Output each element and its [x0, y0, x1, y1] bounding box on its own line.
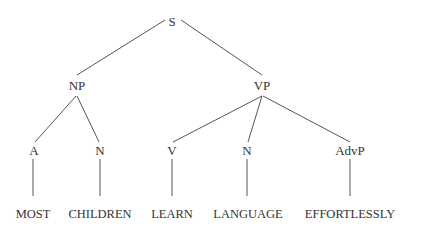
- node-s: S: [168, 15, 175, 28]
- edge-vp-n: [248, 96, 262, 142]
- edge-np-a: [35, 96, 76, 142]
- node-a: A: [29, 144, 38, 157]
- node-np: NP: [69, 79, 86, 92]
- node-v: V: [167, 144, 176, 157]
- edge-np-n: [77, 96, 99, 142]
- edge-s-np: [77, 20, 165, 75]
- leaf-language: LANGUAGE: [213, 208, 282, 221]
- leaf-learn: LEARN: [151, 208, 193, 221]
- node-n-noun-phrase: N: [95, 144, 104, 157]
- node-n-verb-phrase: N: [242, 144, 251, 157]
- leaf-children: CHILDREN: [68, 208, 131, 221]
- node-vp: VP: [254, 79, 271, 92]
- edge-vp-advp: [263, 96, 350, 142]
- node-advp: AdvP: [335, 144, 365, 157]
- leaf-effortlessly: EFFORTLESSLY: [305, 208, 395, 221]
- syntax-tree-diagram: S NP VP A N V N AdvP MOST CHILDREN LEARN…: [0, 0, 421, 231]
- edge-vp-v: [173, 96, 262, 142]
- edge-s-vp: [181, 20, 262, 75]
- tree-edges: [0, 0, 421, 231]
- leaf-most: MOST: [16, 208, 51, 221]
